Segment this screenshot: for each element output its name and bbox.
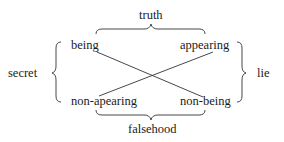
node-non-apearing: non-apearing [71,94,137,108]
node-being: being [71,38,99,52]
label-falsehood: falsehood [128,122,177,136]
node-appearing: appearing [180,38,229,52]
label-lie: lie [257,66,270,80]
left-brace [52,42,61,102]
right-brace [237,42,246,102]
top-brace [96,24,205,34]
node-non-being: non-being [180,94,231,108]
label-truth: truth [139,8,163,22]
label-secret: secret [8,66,37,80]
bottom-brace [96,110,205,120]
edge-appearing-nonapearing [99,52,213,96]
